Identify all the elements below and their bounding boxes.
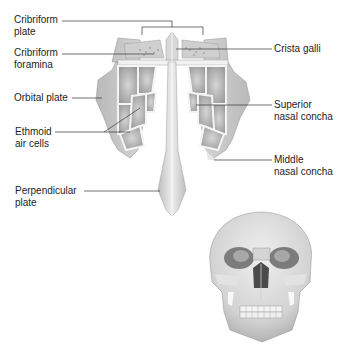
ethmoid-bone (96, 20, 250, 216)
air-cells-left (118, 66, 156, 150)
air-cells-right (188, 66, 226, 150)
label-perpendicular-plate: Perpendicular plate (15, 185, 77, 209)
label-middle-nasal-concha: Middle nasal concha (274, 154, 333, 178)
label-crista-galli: Crista galli (274, 43, 321, 55)
skull-locator (210, 212, 312, 342)
label-cribriform-foramina: Cribriform foramina (14, 47, 58, 71)
label-cribriform-plate: Cribriform plate (14, 14, 58, 38)
label-orbital-plate: Orbital plate (14, 92, 68, 104)
label-superior-nasal-concha: Superior nasal concha (274, 99, 333, 123)
label-ethmoid-air-cells: Ethmoid air cells (15, 126, 52, 150)
